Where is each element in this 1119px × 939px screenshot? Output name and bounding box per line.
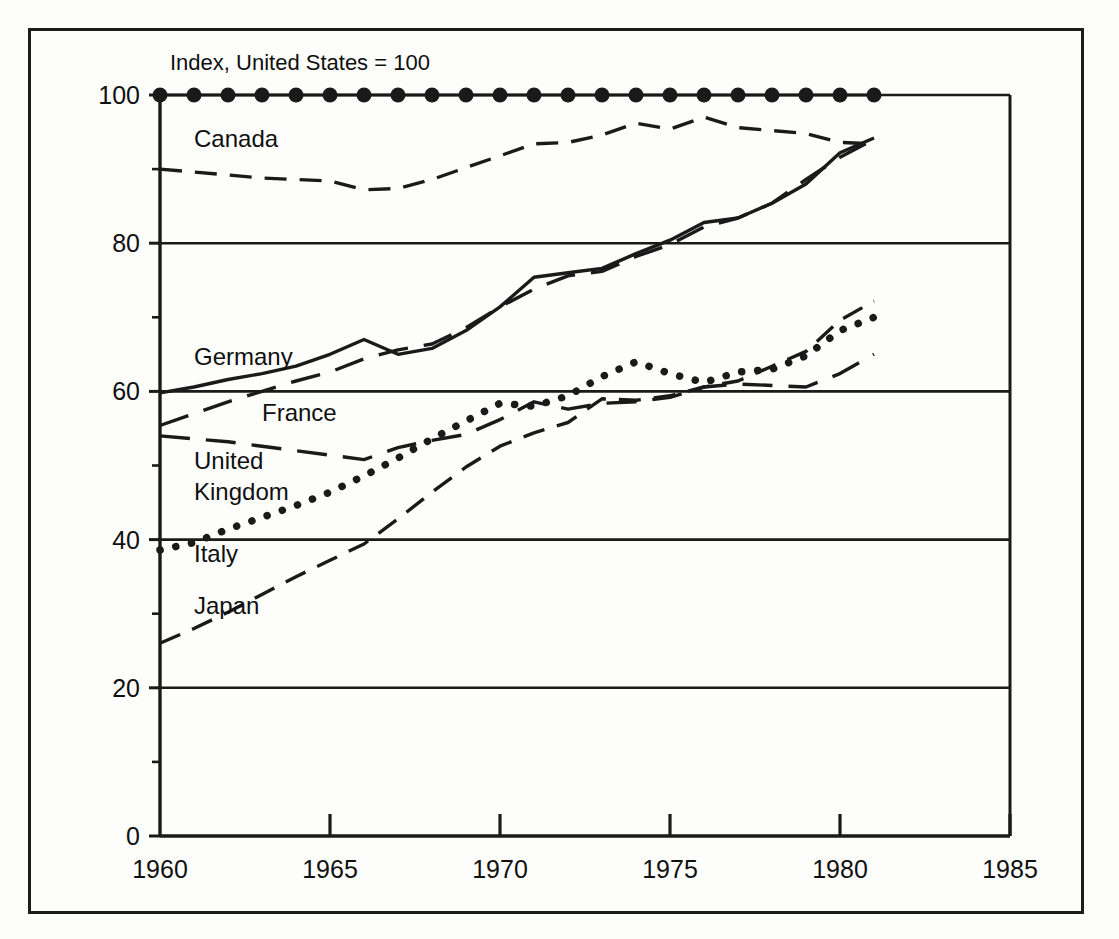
series-marker-united-states-1971 bbox=[527, 88, 542, 103]
series-label-italy: Italy bbox=[194, 540, 238, 567]
series-marker-united-states-1981 bbox=[867, 88, 882, 103]
figure-container: 020406080100196019651970197519801985Inde… bbox=[0, 0, 1119, 939]
series-marker-united-states-1970 bbox=[493, 88, 508, 103]
series-marker-united-states-1968 bbox=[425, 88, 440, 103]
series-marker-united-states-1969 bbox=[459, 88, 474, 103]
series-label-france: France bbox=[262, 399, 337, 426]
chart-title: Index, United States = 100 bbox=[170, 50, 430, 75]
series-marker-united-states-1962 bbox=[221, 88, 236, 103]
x-tick-label-1960: 1960 bbox=[132, 855, 188, 883]
series-marker-united-states-1979 bbox=[799, 88, 814, 103]
x-tick-label-1985: 1985 bbox=[982, 855, 1038, 883]
series-marker-united-states-1975 bbox=[663, 88, 678, 103]
series-marker-united-states-1972 bbox=[561, 88, 576, 103]
series-marker-united-states-1973 bbox=[595, 88, 610, 103]
series-label-united-kingdom-line2: Kingdom bbox=[194, 478, 289, 505]
series-label-canada: Canada bbox=[194, 125, 279, 152]
line-chart: 020406080100196019651970197519801985Inde… bbox=[0, 0, 1119, 939]
y-tick-label-40: 40 bbox=[112, 526, 140, 554]
series-marker-united-states-1978 bbox=[765, 88, 780, 103]
series-line-france bbox=[160, 140, 874, 426]
series-marker-united-states-1961 bbox=[187, 88, 202, 103]
series-marker-united-states-1980 bbox=[833, 88, 848, 103]
series-marker-united-states-1963 bbox=[255, 88, 270, 103]
series-marker-united-states-1964 bbox=[289, 88, 304, 103]
series-marker-united-states-1967 bbox=[391, 88, 406, 103]
y-tick-label-100: 100 bbox=[98, 81, 140, 109]
series-marker-united-states-1974 bbox=[629, 88, 644, 103]
y-tick-label-0: 0 bbox=[126, 822, 140, 850]
series-marker-united-states-1960 bbox=[153, 88, 168, 103]
x-tick-label-1970: 1970 bbox=[472, 855, 528, 883]
y-tick-label-80: 80 bbox=[112, 229, 140, 257]
series-label-japan: Japan bbox=[194, 592, 259, 619]
series-label-germany: Germany bbox=[194, 343, 293, 370]
x-tick-label-1965: 1965 bbox=[302, 855, 358, 883]
x-tick-label-1975: 1975 bbox=[642, 855, 698, 883]
series-marker-united-states-1966 bbox=[357, 88, 372, 103]
y-tick-label-60: 60 bbox=[112, 377, 140, 405]
y-tick-label-20: 20 bbox=[112, 674, 140, 702]
x-tick-label-1980: 1980 bbox=[812, 855, 868, 883]
series-marker-united-states-1977 bbox=[731, 88, 746, 103]
series-marker-united-states-1976 bbox=[697, 88, 712, 103]
series-marker-united-states-1965 bbox=[323, 88, 338, 103]
series-label-united-kingdom-line1: United bbox=[194, 447, 263, 474]
